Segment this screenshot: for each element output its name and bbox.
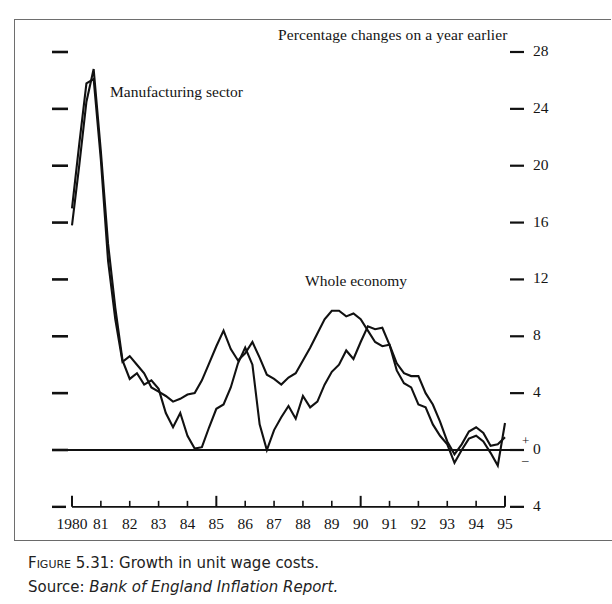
figure-caption-number: 5.31: bbox=[76, 554, 114, 572]
figure-source-text: Bank of England Inflation Report. bbox=[89, 578, 338, 596]
y-axis-label: 4 bbox=[533, 497, 541, 515]
y-axis-label: 8 bbox=[533, 326, 541, 344]
series-label-manufacturing: Manufacturing sector bbox=[110, 83, 243, 101]
figure-caption-line: Figure 5.31: Growth in unit wage costs. bbox=[28, 551, 588, 575]
chart-title: Percentage changes on a year earlier bbox=[278, 26, 508, 44]
x-axis-label: 87 bbox=[266, 515, 282, 533]
x-axis-label: 92 bbox=[411, 515, 427, 533]
x-axis-label: 88 bbox=[295, 515, 311, 533]
x-axis-label: 1980 bbox=[57, 515, 88, 533]
figure-caption: Figure 5.31: Growth in unit wage costs. … bbox=[28, 551, 588, 600]
x-axis-label: 83 bbox=[151, 515, 167, 533]
y-axis-plus-sign: + bbox=[522, 434, 529, 447]
figure-source-line: Source: Bank of England Inflation Report… bbox=[28, 575, 588, 599]
chart-frame-bottom-rule bbox=[14, 540, 612, 541]
x-axis-label: 94 bbox=[468, 515, 484, 533]
y-axis-label: 28 bbox=[533, 42, 549, 60]
y-axis-minus-sign: – bbox=[522, 453, 529, 466]
x-axis-label: 93 bbox=[440, 515, 456, 533]
figure-page: Percentage changes on a year earlier Man… bbox=[0, 0, 612, 604]
y-axis-label: 20 bbox=[533, 156, 549, 174]
x-axis-label: 81 bbox=[93, 515, 109, 533]
x-axis-label: 84 bbox=[180, 515, 196, 533]
y-axis-label: 4 bbox=[533, 383, 541, 401]
figure-caption-title: Growth in unit wage costs. bbox=[119, 554, 319, 572]
series-label-whole-economy: Whole economy bbox=[305, 272, 407, 290]
y-axis-label: 0 bbox=[533, 440, 541, 458]
figure-source-label: Source: bbox=[28, 578, 85, 596]
x-axis-label: 91 bbox=[382, 515, 398, 533]
y-axis-label: 16 bbox=[533, 213, 549, 231]
x-axis-label: 95 bbox=[497, 515, 513, 533]
x-axis-label: 85 bbox=[209, 515, 225, 533]
y-axis-label: 12 bbox=[533, 269, 549, 287]
x-axis-label: 89 bbox=[324, 515, 340, 533]
x-axis-label: 82 bbox=[122, 515, 138, 533]
y-axis-label: 24 bbox=[533, 99, 549, 117]
x-axis-label: 86 bbox=[237, 515, 253, 533]
x-axis-label: 90 bbox=[353, 515, 369, 533]
figure-caption-prefix: Figure bbox=[28, 554, 71, 572]
